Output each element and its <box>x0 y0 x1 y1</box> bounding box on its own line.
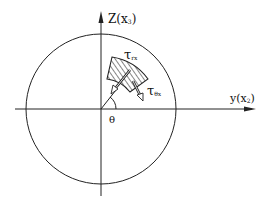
z-axis-label: Z(x3) <box>108 13 136 25</box>
theta-arc <box>110 97 116 109</box>
y-axis-label-close: ) <box>251 92 255 105</box>
z-axis-label-close: ) <box>132 12 137 26</box>
tau-rx-label: τrx <box>124 48 137 61</box>
tau-thetax-arrowhead <box>137 93 143 101</box>
y-axis-label-text: y(x <box>230 92 247 105</box>
z-axis-label-text: Z(x <box>108 12 128 26</box>
radial-line <box>101 90 116 109</box>
z-axis-arrowhead <box>99 11 104 23</box>
y-axis-arrowhead <box>244 107 256 112</box>
tau-thetax-label: τθx <box>147 84 161 97</box>
theta-label: θ <box>109 115 115 125</box>
tau-thetax-subscript: θx <box>154 90 161 97</box>
tau-rx-subscript: rx <box>131 54 137 61</box>
y-axis-label: y(x2) <box>230 93 255 104</box>
